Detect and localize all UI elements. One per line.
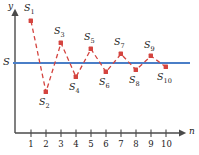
point-label-s9-sub: 9 bbox=[151, 45, 155, 53]
point-label-s6-sub: 6 bbox=[106, 82, 110, 90]
y-axis-label: y bbox=[8, 2, 13, 11]
x-axis-label: n bbox=[189, 127, 195, 136]
point-label-s8-sub: 8 bbox=[136, 80, 140, 88]
point-label-s1-sub: 1 bbox=[31, 8, 35, 16]
point-label-s2-sub: 2 bbox=[46, 102, 50, 110]
point-label-s2: S2 bbox=[39, 97, 50, 109]
point-label-s9: S9 bbox=[144, 40, 155, 52]
x-tick-label-1: 1 bbox=[25, 140, 37, 149]
point-label-s5: S5 bbox=[84, 32, 95, 44]
x-tick-label-4: 4 bbox=[70, 140, 82, 149]
x-tick-label-6: 6 bbox=[100, 140, 112, 149]
point-label-s4: S4 bbox=[69, 82, 80, 94]
point-label-s1: S1 bbox=[24, 3, 35, 15]
point-label-s3: S3 bbox=[54, 26, 65, 38]
point-label-s4-sub: 4 bbox=[76, 87, 80, 95]
x-tick-label-5: 5 bbox=[85, 140, 97, 149]
point-label-s7-sub: 7 bbox=[121, 42, 125, 50]
point-label-s6: S6 bbox=[99, 77, 110, 89]
point-label-s7: S7 bbox=[114, 37, 125, 49]
x-tick-label-7: 7 bbox=[115, 140, 127, 149]
x-tick-label-9: 9 bbox=[145, 140, 157, 149]
x-tick-label-8: 8 bbox=[130, 140, 142, 149]
x-tick-label-3: 3 bbox=[55, 140, 67, 149]
point-label-s10-sub: 10 bbox=[164, 77, 172, 85]
point-label-s10: S10 bbox=[157, 72, 172, 84]
point-label-s5-sub: 5 bbox=[91, 37, 95, 45]
point-label-s3-sub: 3 bbox=[61, 31, 65, 39]
partial-sums-convergence-figure: y n S S1 S2 S3 S4 S5 S6 S7 S8 S9 S10 1 2… bbox=[0, 0, 199, 155]
x-tick-label-2: 2 bbox=[40, 140, 52, 149]
point-label-s8: S8 bbox=[129, 75, 140, 87]
limit-line-label: S bbox=[3, 57, 10, 67]
x-tick-label-10: 10 bbox=[159, 140, 174, 149]
